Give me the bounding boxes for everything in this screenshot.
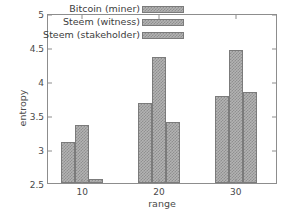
- legend-swatch-bitcoin-miner: [142, 6, 184, 13]
- legend-label: Bitcoin (miner): [4, 4, 142, 14]
- x-tick-label: 20: [153, 183, 164, 197]
- bar: [152, 57, 166, 183]
- y-tick-mark: [48, 151, 52, 152]
- legend-item: Steem (stakeholder): [4, 29, 184, 41]
- y-tick-mark: [48, 117, 52, 118]
- y-tick-mark: [272, 117, 276, 118]
- y-tick-label: 3.5: [30, 113, 48, 122]
- x-tick-mark: [235, 15, 236, 19]
- bar-chart-figure: entropy 2.533.544.55102030 range Bitcoin…: [0, 0, 294, 215]
- bar: [215, 96, 229, 183]
- legend-item: Bitcoin (miner): [4, 3, 184, 15]
- y-tick-mark: [272, 49, 276, 50]
- legend-swatch-steem-witness: [142, 19, 184, 26]
- legend-label: Steem (witness): [4, 17, 142, 27]
- bar: [89, 179, 103, 183]
- bar: [138, 103, 152, 183]
- y-tick-mark: [272, 83, 276, 84]
- bar: [61, 142, 75, 183]
- legend-item: Steem (witness): [4, 16, 184, 28]
- legend-label: Steem (stakeholder): [4, 30, 142, 40]
- x-axis-label: range: [47, 198, 277, 209]
- y-axis-label: entropy: [17, 89, 28, 126]
- y-tick-label: 3: [38, 147, 48, 156]
- x-tick-label: 30: [230, 183, 241, 197]
- y-tick-mark: [48, 83, 52, 84]
- x-tick-label: 10: [77, 183, 88, 197]
- y-tick-label: 4.5: [30, 45, 48, 54]
- y-tick-label: 4: [38, 79, 48, 88]
- y-tick-mark: [272, 15, 276, 16]
- legend-swatch-steem-stakeholder: [142, 32, 184, 39]
- bar: [243, 92, 257, 183]
- y-tick-mark: [48, 49, 52, 50]
- bar: [229, 50, 243, 183]
- chart-legend: Bitcoin (miner) Steem (witness) Steem (s…: [4, 3, 184, 42]
- bar: [75, 125, 89, 183]
- y-tick-mark: [272, 151, 276, 152]
- y-tick-label: 2.5: [30, 181, 48, 190]
- bar: [166, 122, 180, 183]
